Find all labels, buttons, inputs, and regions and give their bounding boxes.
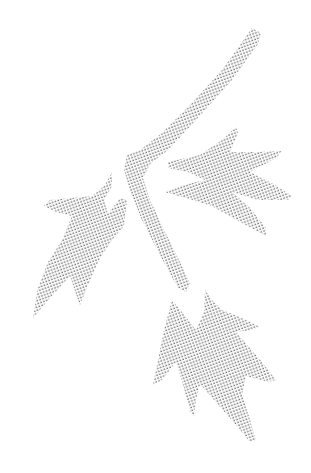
illustration-canvas: Halftone-dot illustration of a branch wi… [0, 0, 311, 473]
leaf-left [33, 172, 127, 318]
leaf-bottom [153, 290, 276, 442]
leaf-right [164, 127, 292, 236]
leaf-branch-illustration [0, 0, 311, 473]
